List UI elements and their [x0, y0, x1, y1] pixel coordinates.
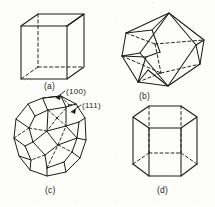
hex-top-face [133, 106, 197, 128]
caption-a: (a) [44, 81, 55, 91]
figure-panel: (a) (b) (c) (d) (100) (111) [0, 0, 215, 207]
shape-hexagonal-prism-d [0, 0, 215, 207]
face-label-111: (111) [82, 101, 101, 110]
caption-c: (c) [45, 185, 56, 195]
hex-hidden-bottom-right [181, 153, 197, 164]
caption-d: (d) [157, 185, 168, 195]
caption-b: (b) [139, 91, 150, 101]
face-label-100: (100) [66, 87, 86, 96]
hex-hidden-bottom-left [133, 153, 149, 164]
hex-bottom-face-front [133, 164, 197, 176]
